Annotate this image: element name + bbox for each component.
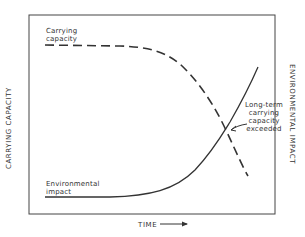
environmental-impact-label-line1: Environmental [46,180,100,188]
carrying-capacity-label-line2: capacity [46,35,77,43]
environmental-impact-curve [45,67,258,197]
carrying-capacity-label: Carrying capacity [46,27,77,43]
annotation-text: Long-term carrying capacity exceeded [245,101,283,133]
annotation-arrowhead-icon [231,126,236,131]
carrying-capacity-curve [45,45,248,176]
annotation-line4: exceeded [245,125,283,133]
carrying-capacity-label-line1: Carrying [46,27,77,35]
annotation-line3: capacity [245,117,283,125]
x-axis-label: TIME [138,221,157,229]
y-left-axis-label: CARRYING CAPACITY [5,87,13,169]
environmental-impact-label: Environmental impact [46,180,100,196]
annotation-line2: carrying [245,109,283,117]
environmental-impact-label-line2: impact [46,188,100,196]
y-right-axis-label: ENVIRONMENTAL IMPACT [288,64,296,164]
time-arrowhead-icon [182,222,188,227]
annotation-line1: Long-term [245,101,283,109]
